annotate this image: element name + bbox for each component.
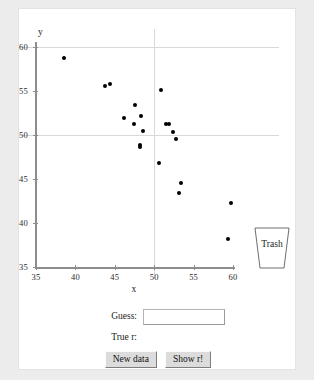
data-point[interactable] [108, 82, 112, 86]
true-r-label: True r: [75, 332, 143, 342]
x-tick-50 [154, 265, 155, 270]
data-point[interactable] [179, 181, 183, 185]
guess-input[interactable] [143, 309, 225, 325]
trash-label: Trash [251, 239, 293, 249]
guess-field-wrap [143, 306, 241, 325]
y-tick-label-35: 35 [8, 262, 28, 272]
y-tick-50 [33, 135, 38, 136]
data-point[interactable] [138, 145, 142, 149]
gridline-h-50 [19, 135, 279, 136]
gridline-h-60 [19, 47, 279, 48]
controls-panel: Guess: True r: New data Show r! [19, 305, 297, 368]
x-axis-line [36, 267, 235, 269]
y-tick-label-40: 40 [8, 218, 28, 228]
data-point[interactable] [167, 122, 171, 126]
y-tick-label-45: 45 [8, 174, 28, 184]
data-point[interactable] [177, 191, 181, 195]
data-point[interactable] [122, 116, 126, 120]
y-axis-line [35, 42, 37, 269]
data-point[interactable] [139, 114, 143, 118]
true-r-field-wrap [143, 328, 241, 346]
data-point[interactable] [62, 56, 66, 60]
y-axis-title: y [38, 27, 43, 37]
new-data-button[interactable]: New data [105, 351, 157, 368]
y-tick-45 [33, 179, 38, 180]
button-row: New data Show r! [19, 351, 297, 368]
y-tick-label-50: 50 [8, 130, 28, 140]
x-tick-label-50: 50 [144, 272, 164, 282]
y-tick-label-60: 60 [8, 42, 28, 52]
x-tick-label-35: 35 [26, 272, 46, 282]
x-tick-60 [233, 265, 234, 270]
data-point[interactable] [226, 237, 230, 241]
x-tick-45 [115, 265, 116, 270]
data-point[interactable] [132, 122, 136, 126]
data-point[interactable] [174, 137, 178, 141]
y-tick-40 [33, 223, 38, 224]
data-point[interactable] [103, 84, 107, 88]
gridline-v-50 [154, 29, 155, 279]
x-axis-title: x [132, 284, 137, 294]
x-tick-55 [194, 265, 195, 270]
x-tick-40 [75, 265, 76, 270]
show-r-button[interactable]: Show r! [165, 351, 211, 368]
x-tick-label-60: 60 [223, 272, 243, 282]
true-r-row: True r: [19, 326, 297, 347]
data-point[interactable] [133, 103, 137, 107]
data-point[interactable] [229, 201, 233, 205]
x-tick-label-40: 40 [65, 272, 85, 282]
y-tick-label-55: 55 [8, 86, 28, 96]
data-point[interactable] [141, 129, 145, 133]
x-tick-label-45: 45 [105, 272, 125, 282]
data-point[interactable] [159, 88, 163, 92]
data-point[interactable] [157, 161, 161, 165]
guess-row: Guess: [19, 305, 297, 326]
x-tick-35 [36, 265, 37, 270]
x-tick-label-55: 55 [184, 272, 204, 282]
guess-label: Guess: [75, 311, 143, 321]
y-tick-55 [33, 91, 38, 92]
y-tick-60 [33, 47, 38, 48]
correlation-applet: 354045505560354045505560yx Trash Guess: … [18, 8, 296, 370]
trash-can[interactable]: Trash [251, 224, 293, 272]
data-point[interactable] [171, 130, 175, 134]
